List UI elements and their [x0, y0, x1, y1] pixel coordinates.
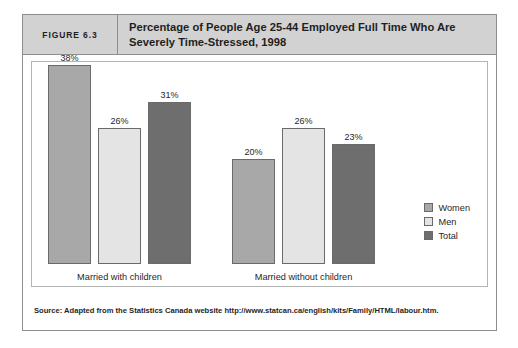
bar-total-group1: 31%: [148, 102, 191, 264]
figure-number-label: FIGURE 6.3: [42, 30, 97, 40]
legend-label: Total: [439, 231, 458, 241]
bar-total-group2: 23%: [332, 144, 375, 264]
figure-title-cell: Percentage of People Age 25-44 Employed …: [118, 15, 496, 54]
bar-women-group1: 38%: [48, 65, 91, 264]
source-note: Source: Adapted from the Statistics Cana…: [34, 306, 439, 315]
bar-value-label: 23%: [344, 132, 362, 142]
chart-frame: 38%26%31%20%26%23% Married with children…: [31, 61, 488, 287]
figure-title: Percentage of People Age 25-44 Employed …: [129, 20, 486, 49]
group-label-1: Married with children: [77, 272, 162, 282]
bar-rect: [48, 65, 91, 264]
bar-rect: [148, 102, 191, 264]
source-row: Source: Adapted from the Statistics Cana…: [23, 290, 496, 330]
group-label-2: Married without children: [255, 272, 353, 282]
bar-value-label: 20%: [244, 147, 262, 157]
figure-number-cell: FIGURE 6.3: [23, 15, 118, 54]
legend-label: Men: [439, 217, 457, 227]
bar-rect: [332, 144, 375, 264]
bar-men-group2: 26%: [282, 128, 325, 264]
bar-rect: [232, 159, 275, 264]
figure-header: FIGURE 6.3 Percentage of People Age 25-4…: [23, 15, 496, 55]
legend-label: Women: [439, 203, 471, 213]
legend-item-men: Men: [424, 215, 471, 228]
bar-value-label: 31%: [160, 90, 178, 100]
bar-rect: [98, 128, 141, 264]
bar-value-label: 26%: [294, 116, 312, 126]
chart-legend: WomenMenTotal: [424, 201, 471, 243]
bar-value-label: 38%: [60, 53, 78, 63]
legend-swatch-icon: [424, 231, 433, 240]
bar-women-group2: 20%: [232, 159, 275, 264]
legend-item-total: Total: [424, 229, 471, 242]
figure-container: FIGURE 6.3 Percentage of People Age 25-4…: [22, 14, 497, 331]
legend-swatch-icon: [424, 203, 433, 212]
legend-item-women: Women: [424, 201, 471, 214]
bar-men-group1: 26%: [98, 128, 141, 264]
legend-swatch-icon: [424, 217, 433, 226]
bar-rect: [282, 128, 325, 264]
chart-plot-area: 38%26%31%20%26%23% Married with children…: [23, 55, 496, 291]
bar-value-label: 26%: [110, 116, 128, 126]
